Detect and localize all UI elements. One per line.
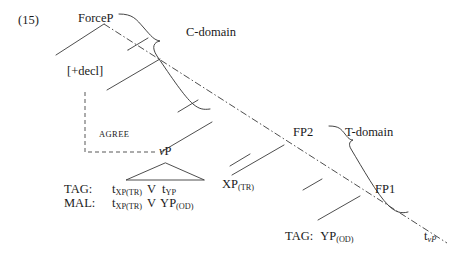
node-vp: vP — [159, 145, 172, 158]
gloss-row-tag-yp-label: TAG: — [285, 229, 313, 243]
node-vp-p: P — [165, 144, 172, 158]
gloss-mal-item-2-main: YP — [160, 196, 176, 210]
node-xp-tr-sub: (TR) — [238, 183, 254, 192]
node-forcep: ForceP — [78, 12, 113, 25]
gloss-row-tag-label: TAG: — [64, 182, 104, 197]
gloss-row-mal-label: MAL: — [64, 196, 104, 211]
t-domain-brace — [329, 126, 408, 213]
gloss-mal-item-2-sub: (OD) — [176, 202, 193, 211]
gloss-row-tag-yp: TAG:YP(OD) — [285, 229, 354, 244]
branch-forcep-left — [56, 24, 104, 55]
label-agree: AGREE — [99, 130, 129, 139]
node-fp1: FP1 — [375, 183, 395, 196]
node-fp2: FP2 — [293, 126, 313, 139]
label-t-domain: T-domain — [345, 126, 393, 139]
label-c-domain: C-domain — [186, 26, 236, 39]
gloss-yp-sub: (OD) — [336, 235, 353, 244]
gloss-tag-item-1-main: V — [147, 182, 156, 196]
node-decl: [+decl] — [67, 65, 103, 78]
branch-spec-5 — [303, 179, 322, 190]
node-xp-tr-main: XP — [222, 177, 238, 191]
gloss-yp-main: YP — [320, 229, 336, 243]
node-t-vp-sub: vP — [427, 235, 436, 244]
branch-spec-1 — [128, 38, 148, 50]
node-xp-tr: XP(TR) — [222, 178, 254, 193]
branch-to-ypod — [318, 196, 360, 220]
example-number: (15) — [18, 14, 39, 27]
gloss-row-mal: MAL:tXP(TR)VYP(OD) — [64, 196, 194, 211]
vp-triangle — [126, 163, 204, 180]
agree-dashed-path — [85, 92, 156, 152]
branch-tier2 — [107, 59, 160, 90]
gloss-mal-item-1-main: V — [147, 196, 156, 210]
gloss-mal-item-0-sub: XP(TR) — [115, 202, 142, 211]
node-t-vp: tvP — [424, 230, 436, 245]
branch-spec-4 — [230, 154, 250, 166]
